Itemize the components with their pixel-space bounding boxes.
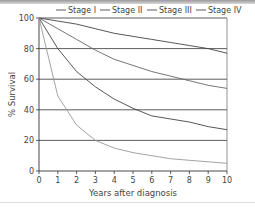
legend-label-3: Stage III xyxy=(159,6,192,15)
x-tick-label-9: 9 xyxy=(206,176,211,185)
x-axis-title: Years after diagnosis xyxy=(88,188,178,198)
y-tick-label-20: 20 xyxy=(24,136,34,145)
y-axis-title: % Survival xyxy=(7,72,17,117)
x-tick-label-5: 5 xyxy=(130,176,135,185)
y-tick-label-40: 40 xyxy=(24,106,34,115)
series-line-stage-iii xyxy=(39,18,227,130)
x-tick-label-8: 8 xyxy=(187,176,192,185)
series-line-stage-iv xyxy=(39,18,227,163)
y-tick-label-0: 0 xyxy=(29,167,34,176)
y-tick-label-100: 100 xyxy=(19,14,34,23)
bottom-divider xyxy=(0,202,255,203)
x-tick-label-1: 1 xyxy=(55,176,60,185)
x-tick-label-4: 4 xyxy=(112,176,117,185)
x-tick-label-10: 10 xyxy=(222,176,232,185)
x-tick-label-2: 2 xyxy=(74,176,79,185)
y-tick-label-80: 80 xyxy=(24,45,34,54)
x-tick-label-6: 6 xyxy=(149,176,154,185)
x-tick-label-0: 0 xyxy=(36,176,41,185)
series-line-stage-i xyxy=(39,18,227,53)
x-tick-label-7: 7 xyxy=(168,176,173,185)
legend-label-4: Stage IV xyxy=(208,6,242,15)
x-tick-label-3: 3 xyxy=(93,176,98,185)
legend-label-2: Stage II xyxy=(112,6,142,15)
y-tick-label-60: 60 xyxy=(24,75,34,84)
survival-chart: 020406080100012345678910Years after diag… xyxy=(0,0,255,208)
series-line-stage-ii xyxy=(39,18,227,88)
legend-label-1: Stage I xyxy=(68,6,96,15)
